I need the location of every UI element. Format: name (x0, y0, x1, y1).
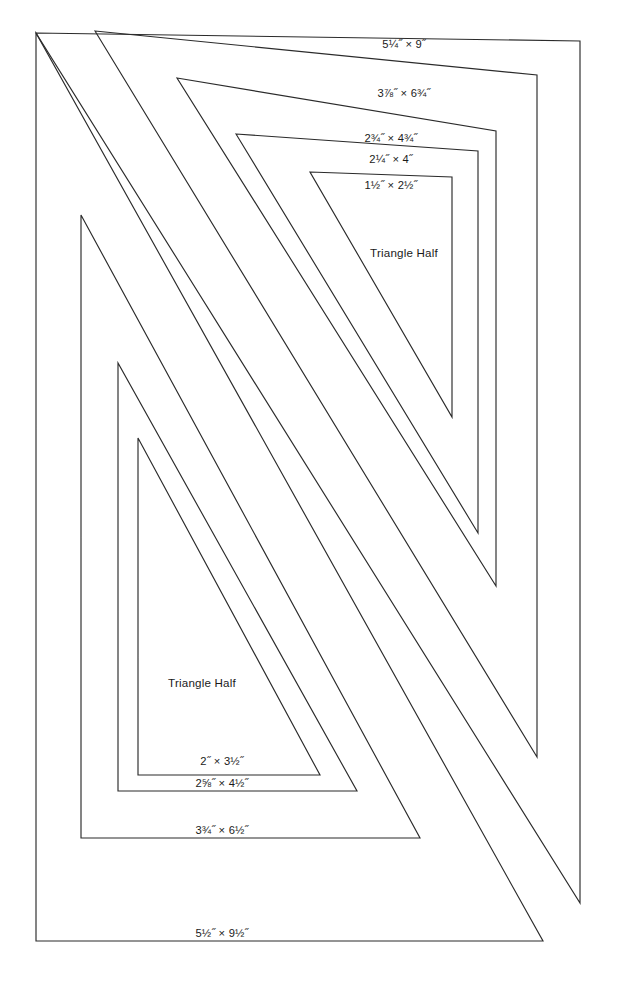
triangle-template-diagram: 5¼˝ × 9˝ 3⅞˝ × 6¾˝ 2¾˝ × 4¾˝ 2¼˝ × 4˝ 1½… (0, 0, 627, 991)
size-label-lower-1: 5½˝ × 9½˝ (195, 927, 249, 939)
triangle-template-upper-3[interactable] (177, 78, 496, 586)
lower-left-triangle-group (36, 33, 543, 941)
size-label-lower-4: 2˝ × 3½˝ (200, 755, 245, 767)
triangle-template-lower-4[interactable] (138, 438, 320, 775)
pattern-sheet: 5¼˝ × 9˝ 3⅞˝ × 6¾˝ 2¾˝ × 4¾˝ 2¼˝ × 4˝ 1½… (0, 0, 627, 991)
size-label-lower-2: 3¾˝ × 6½˝ (195, 824, 249, 836)
size-label-upper-4: 2¼˝ × 4˝ (369, 153, 414, 165)
triangle-template-lower-3[interactable] (118, 363, 357, 791)
label-layer: 5¼˝ × 9˝ 3⅞˝ × 6¾˝ 2¾˝ × 4¾˝ 2¼˝ × 4˝ 1½… (168, 38, 438, 939)
size-label-upper-2: 3⅞˝ × 6¾˝ (377, 87, 431, 99)
shape-name-label-upper: Triangle Half (370, 246, 438, 259)
size-label-lower-3: 2⅝˝ × 4½˝ (195, 777, 249, 789)
size-label-upper-3: 2¾˝ × 4¾˝ (364, 132, 418, 144)
shape-name-label-lower: Triangle Half (168, 676, 236, 689)
triangle-template-upper-4[interactable] (236, 134, 478, 533)
size-label-upper-5: 1½˝ × 2½˝ (364, 179, 418, 191)
triangle-template-lower-1[interactable] (36, 33, 543, 941)
size-label-upper-1: 5¼˝ × 9˝ (382, 38, 427, 50)
triangle-template-upper-5[interactable] (310, 172, 452, 417)
triangle-template-lower-2[interactable] (81, 215, 420, 838)
